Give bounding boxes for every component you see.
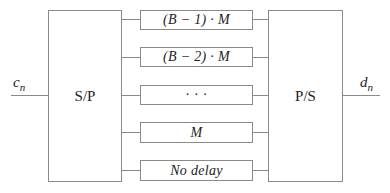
branch-line-left-4 [122,132,140,133]
branch-line-left-3 [122,95,140,96]
delay-label-4: M [191,125,203,141]
branch-line-right-3 [253,95,268,96]
delay-block-4: M [140,122,253,143]
delay-label-5: No delay [170,163,223,179]
input-signal-subscript: n [20,81,26,93]
output-signal-label: dn [360,74,373,93]
branch-line-right-4 [253,132,268,133]
serial-to-parallel-block: S/P [48,10,122,182]
delay-block-1: (B − 1) · M [140,10,253,30]
input-signal-label: cn [13,74,25,93]
output-line [343,95,380,96]
delay-block-2: (B − 2) · M [140,47,253,67]
output-signal-subscript: n [368,81,374,93]
branch-line-left-2 [122,57,140,58]
input-line [11,95,48,96]
serial-to-parallel-label: S/P [75,88,96,105]
delay-block-3: · · · [140,85,253,105]
delay-label-2: (B − 2) · M [163,49,230,65]
branch-line-right-2 [253,57,268,58]
input-signal-symbol: c [13,74,20,90]
parallel-to-serial-label: P/S [295,88,316,105]
parallel-to-serial-block: P/S [268,10,343,182]
branch-line-left-1 [122,19,140,20]
delay-block-5: No delay [140,160,253,181]
branch-line-left-5 [122,170,140,171]
branch-line-right-5 [253,170,268,171]
branch-line-right-1 [253,19,268,20]
delay-label-3: · · · [185,87,208,103]
output-signal-symbol: d [360,74,368,90]
delay-label-1: (B − 1) · M [163,12,230,28]
